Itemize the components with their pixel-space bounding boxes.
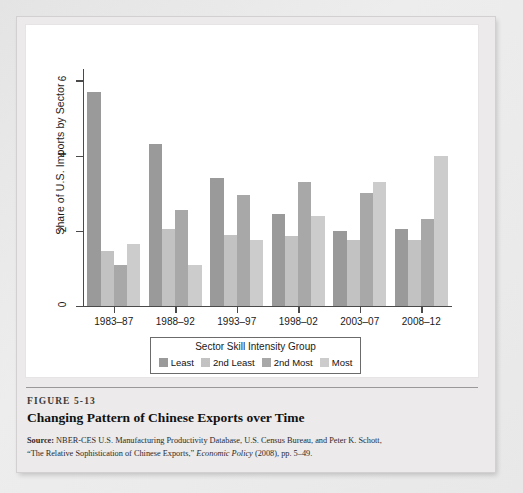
- bar: [114, 265, 127, 306]
- legend-item: 2nd Most: [262, 357, 313, 368]
- x-tick-label: 1998–02: [263, 316, 333, 327]
- source-line-1: NBER-CES U.S. Manufacturing Productivity…: [54, 436, 382, 445]
- legend-swatch: [159, 358, 168, 367]
- bars-layer: [83, 69, 452, 306]
- x-tick-label: 1993–97: [202, 316, 272, 327]
- bar: [162, 229, 175, 306]
- figure-title: Changing Pattern of Chinese Exports over…: [27, 410, 305, 426]
- legend-title: Sector Skill Intensity Group: [151, 341, 360, 352]
- y-tick-mark: [76, 80, 83, 81]
- legend-swatch: [201, 358, 210, 367]
- bar: [434, 156, 447, 306]
- bar: [311, 216, 324, 306]
- x-tick-label: 1983–87: [79, 316, 149, 327]
- bar: [175, 210, 188, 306]
- x-tick-mark: [360, 307, 361, 313]
- y-tick-label: 0: [57, 295, 68, 315]
- bar: [298, 182, 311, 306]
- figure-source-note: Source: NBER-CES U.S. Manufacturing Prod…: [27, 435, 477, 460]
- chart-legend: Sector Skill Intensity Group Least2nd Le…: [150, 337, 361, 374]
- page-background: Share of U.S. Imports by Sector 0246 198…: [0, 0, 523, 493]
- legend-swatch: [320, 358, 329, 367]
- source-line-2-post: (2008), pp. 5–49.: [253, 449, 312, 458]
- caption-divider: [26, 387, 478, 388]
- bar: [333, 231, 346, 306]
- x-tick-mark: [237, 307, 238, 313]
- x-tick-mark: [114, 307, 115, 313]
- x-tick-mark: [298, 307, 299, 313]
- bar: [272, 214, 285, 306]
- y-tick-mark: [76, 231, 83, 232]
- bar: [395, 229, 408, 306]
- bar: [360, 193, 373, 306]
- bar: [408, 240, 421, 306]
- legend-label: Least: [171, 357, 194, 368]
- figure-number: FIGURE 5-13: [27, 396, 96, 406]
- bar-chart-plot: Share of U.S. Imports by Sector 0246 198…: [26, 25, 478, 377]
- source-line-2-pre: “The Relative Sophistication of Chinese …: [27, 449, 196, 458]
- bar: [210, 178, 223, 306]
- legend-item: 2nd Least: [201, 357, 255, 368]
- y-tick-label: 6: [57, 69, 68, 89]
- legend-item: Least: [159, 357, 194, 368]
- x-tick-label: 2008–12: [386, 316, 456, 327]
- bar: [250, 240, 263, 306]
- bar: [149, 144, 162, 306]
- x-axis-line: [83, 306, 452, 307]
- bar: [224, 235, 237, 306]
- x-tick-label: 2003–07: [325, 316, 395, 327]
- bar: [347, 240, 360, 306]
- y-tick-mark: [76, 306, 83, 307]
- legend-label: 2nd Most: [274, 357, 313, 368]
- legend-label: 2nd Least: [213, 357, 255, 368]
- bar: [127, 244, 140, 306]
- legend-label: Most: [332, 357, 353, 368]
- bar: [188, 265, 201, 306]
- x-tick-mark: [421, 307, 422, 313]
- legend-item: Most: [320, 357, 353, 368]
- source-label: Source:: [27, 436, 54, 445]
- legend-items: Least2nd Least2nd MostMost: [151, 357, 360, 368]
- y-tick-label: 4: [57, 144, 68, 164]
- legend-swatch: [262, 358, 271, 367]
- bar: [421, 219, 434, 306]
- bar: [285, 236, 298, 306]
- bar: [237, 195, 250, 306]
- y-tick-label: 2: [57, 219, 68, 239]
- bar: [373, 182, 386, 306]
- bar: [87, 92, 100, 306]
- figure-plate: Share of U.S. Imports by Sector 0246 198…: [17, 17, 495, 472]
- y-tick-mark: [76, 156, 83, 157]
- x-tick-label: 1988–92: [140, 316, 210, 327]
- chart-card: Share of U.S. Imports by Sector 0246 198…: [26, 25, 478, 377]
- bar: [101, 251, 114, 306]
- x-tick-mark: [175, 307, 176, 313]
- source-journal-name: Economic Policy: [196, 449, 252, 458]
